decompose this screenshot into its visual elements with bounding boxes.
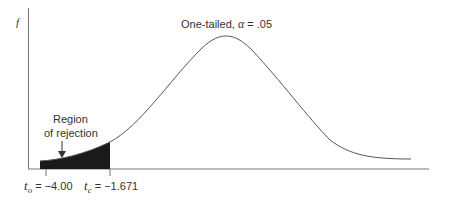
arrow-head-icon [58, 151, 66, 158]
y-axis-label: f [16, 16, 21, 28]
marker-tc-label: tc = −1.671 [84, 178, 138, 195]
chart-title: One-tailed, α = .05 [181, 17, 272, 31]
density-curve [40, 36, 411, 161]
t-distribution-chart: f One-tailed, α = .05 Region of rejectio… [0, 0, 452, 200]
region-label-line1: Region [53, 113, 88, 125]
region-label-line2: of rejection [44, 127, 98, 139]
marker-to-label: to = −4.00 [24, 178, 73, 195]
